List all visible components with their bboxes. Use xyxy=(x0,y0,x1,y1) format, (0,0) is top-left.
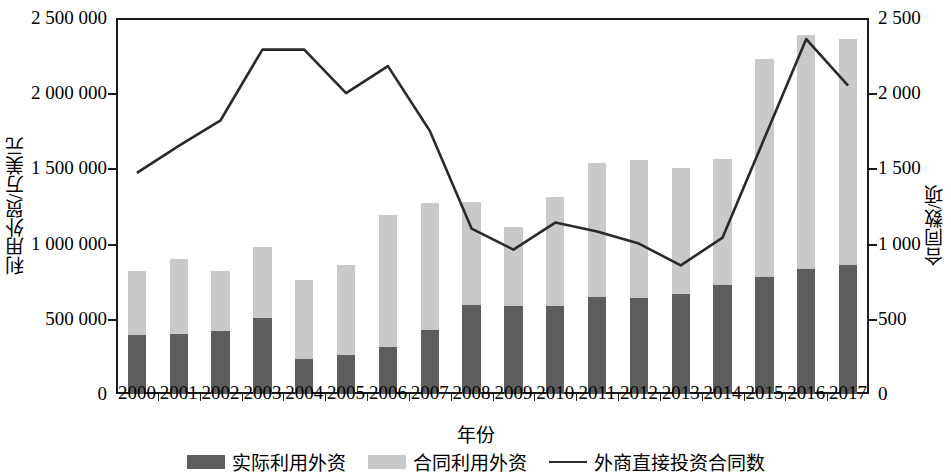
y-axis-right-title: 合同数/项 xyxy=(921,140,949,310)
x-axis-tick-label: 2001 xyxy=(160,382,198,404)
x-axis-tick-mark xyxy=(200,394,201,401)
x-axis-tick-label: 2012 xyxy=(620,382,658,404)
y-axis-right-tick-mark xyxy=(869,93,877,95)
x-axis-tick-mark xyxy=(660,394,661,401)
x-axis-tick-mark xyxy=(242,394,243,401)
x-axis-tick-label: 2004 xyxy=(285,382,323,404)
x-axis-tick-label: 2014 xyxy=(704,382,742,404)
legend-item: 实际利用外资 xyxy=(187,448,346,474)
x-axis-tick-mark xyxy=(785,394,786,401)
plot-area: 00500 0005001 000 0001 0001 500 0001 500… xyxy=(116,18,869,394)
x-axis-tick-mark xyxy=(367,394,368,401)
x-axis-title: 年份 xyxy=(0,420,951,447)
chart-legend: 实际利用外资合同利用外资外商直接投资合同数 xyxy=(0,448,951,474)
y-axis-left-tick-label: 2 500 000 xyxy=(31,7,116,29)
x-axis-tick-label: 2017 xyxy=(829,382,867,404)
x-axis-tick-mark xyxy=(409,394,410,401)
y-axis-left-tick-label: 500 000 xyxy=(45,308,116,330)
line-series-layer xyxy=(116,18,869,394)
y-axis-left-tick-label: 0 xyxy=(98,383,117,405)
x-axis-tick-mark xyxy=(702,394,703,401)
x-axis-tick-mark xyxy=(451,394,452,401)
legend-label: 实际利用外资 xyxy=(232,448,346,474)
x-axis-tick-label: 2011 xyxy=(578,382,615,404)
y-axis-right-tick-mark xyxy=(869,168,877,170)
x-axis-tick-label: 2015 xyxy=(745,382,783,404)
legend-color-swatch xyxy=(187,455,225,469)
y-axis-left-tick-mark xyxy=(108,168,116,170)
legend-line-swatch xyxy=(549,461,587,463)
fdi-contract-count-line xyxy=(137,39,848,265)
y-axis-right-tick-mark xyxy=(869,319,877,321)
y-axis-left-tick-label: 1 500 000 xyxy=(31,157,116,179)
x-axis-tick-label: 2016 xyxy=(787,382,825,404)
x-axis-tick-label: 2007 xyxy=(411,382,449,404)
legend-item: 外商直接投资合同数 xyxy=(549,448,765,474)
x-axis-tick-mark xyxy=(493,394,494,401)
x-axis-tick-mark xyxy=(325,394,326,401)
y-axis-left-tick-mark xyxy=(108,319,116,321)
x-axis-tick-label: 2003 xyxy=(243,382,281,404)
y-axis-left-tick-mark xyxy=(108,244,116,246)
y-axis-right-tick-mark xyxy=(869,244,877,246)
legend-item: 合同利用外资 xyxy=(368,448,527,474)
x-axis-tick-label: 2002 xyxy=(202,382,240,404)
y-axis-right-tick-label: 0 xyxy=(869,383,888,405)
x-axis-tick-label: 2000 xyxy=(118,382,156,404)
x-axis-tick-mark xyxy=(283,394,284,401)
x-axis-tick-mark xyxy=(744,394,745,401)
legend-label: 外商直接投资合同数 xyxy=(594,448,765,474)
y-axis-left-title: 利用外贸/万美元 xyxy=(2,96,30,316)
x-axis-tick-label: 2010 xyxy=(536,382,574,404)
x-axis-tick-mark xyxy=(534,394,535,401)
x-axis-tick-mark xyxy=(618,394,619,401)
x-axis-tick-label: 2013 xyxy=(662,382,700,404)
x-axis-tick-label: 2008 xyxy=(453,382,491,404)
y-axis-left-tick-mark xyxy=(108,93,116,95)
x-axis-tick-label: 2006 xyxy=(369,382,407,404)
y-axis-right-tick-label: 2 500 xyxy=(869,7,921,29)
legend-color-swatch xyxy=(368,455,406,469)
x-axis-tick-mark xyxy=(827,394,828,401)
y-axis-left-tick-label: 2 000 000 xyxy=(31,82,116,104)
chart-figure: 利用外贸/万美元 合同数/项 年份 00500 0005001 000 0001… xyxy=(0,0,951,474)
legend-label: 合同利用外资 xyxy=(413,448,527,474)
x-axis-tick-mark xyxy=(158,394,159,401)
x-axis-tick-label: 2005 xyxy=(327,382,365,404)
y-axis-left-tick-label: 1 000 000 xyxy=(31,233,116,255)
x-axis-tick-label: 2009 xyxy=(494,382,532,404)
x-axis-tick-mark xyxy=(576,394,577,401)
